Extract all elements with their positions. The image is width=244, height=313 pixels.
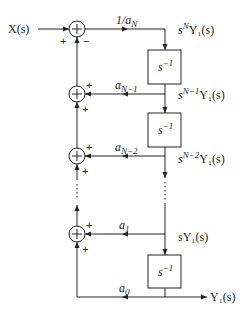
signal-sN-2: sN−2Y₁(s) [178,150,225,166]
sign-plus: + [60,35,66,47]
arrow-icon [85,92,91,97]
arrow-icon [201,295,207,300]
sign-minus: − [83,35,89,47]
gain-a-n-1: aN−1 [115,78,138,94]
arrow-icon [75,37,80,43]
signal-sN: sNY₁(s) [178,21,214,37]
arrow-icon [163,172,168,178]
summer-n-2 [69,148,85,164]
arrow-icon [163,44,168,50]
arrow-icon [163,249,168,255]
arrow-icon [122,27,128,32]
block-diagram: + − + + + + + + X(s) Y₁(s) s−1 s−1 s−1 1… [0,0,244,313]
arrow-icon [75,242,80,248]
input-label: X(s) [8,22,29,36]
summer-1 [69,226,85,242]
arrow-icon [85,154,91,159]
summer-n-1 [69,86,85,102]
gain-a-0: a0 [119,281,130,297]
arrow-icon [163,107,168,113]
sign-plus: + [82,243,88,255]
sign-plus: + [86,141,92,153]
signal-s1: sY₁(s) [178,230,208,244]
sign-plus: + [86,219,92,231]
arrow-icon [75,205,80,211]
output-label: Y₁(s) [210,290,236,304]
arrow-icon [85,232,91,237]
gain-forward: 1/aN [116,13,138,29]
gain-a-1: a1 [119,218,130,234]
sign-plus: + [86,79,92,91]
arrow-icon [63,27,69,32]
sign-plus: + [82,165,88,177]
sign-plus: + [82,103,88,115]
arrow-icon [75,102,80,108]
arrow-icon [75,164,80,170]
signal-sN-1: sN−1Y₁(s) [178,86,225,102]
gain-a-n-2: aN−2 [115,140,138,156]
